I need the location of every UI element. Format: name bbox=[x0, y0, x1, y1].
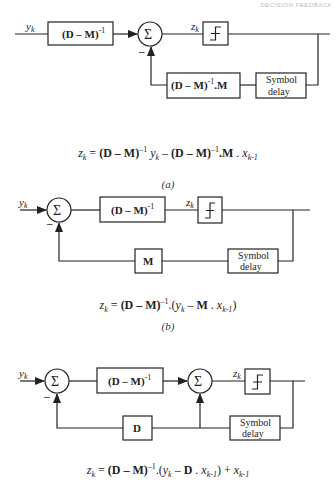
forward-block-label: (D – M)-1 bbox=[108, 373, 151, 388]
input-label-yk: yk bbox=[18, 367, 28, 381]
forward-block-label: (D – M)-1 bbox=[62, 26, 105, 41]
diagram-b bbox=[20, 197, 310, 273]
caption-b: (b) bbox=[0, 320, 336, 332]
forward-block-label: (D – M)-1 bbox=[111, 202, 154, 217]
block-diagrams: yk (D – M)-1 Σ – zk (D – M)-1.M Symbol d… bbox=[0, 0, 336, 485]
input-label-yk: yk bbox=[25, 20, 35, 34]
feedback-line bbox=[59, 225, 135, 261]
caption-a: (a) bbox=[0, 178, 336, 190]
delay-label-line2: delay bbox=[240, 261, 262, 272]
sigma-symbol-1: Σ bbox=[51, 374, 59, 389]
sigma-symbol-2: Σ bbox=[194, 374, 202, 389]
input-label-yk: yk bbox=[18, 196, 28, 210]
slicer-input-label-zk: zk bbox=[232, 367, 241, 381]
minus-sign: – bbox=[43, 390, 50, 402]
slicer-icon bbox=[205, 203, 215, 218]
feedback-branch bbox=[280, 381, 293, 428]
delay-label-line2: delay bbox=[268, 86, 290, 97]
delay-label-line1: Symbol bbox=[238, 250, 269, 261]
sigma-symbol: Σ bbox=[144, 27, 152, 42]
slicer-icon bbox=[252, 375, 263, 389]
feedback-block-label: M bbox=[143, 255, 154, 267]
delay-label-line2: delay bbox=[242, 428, 264, 439]
diagram-b-labels: yk Σ – (D – M)-1 zk M Symbol delay bbox=[18, 196, 269, 272]
feedback-branch bbox=[278, 210, 293, 261]
sigma-symbol: Σ bbox=[53, 203, 61, 218]
feedback-block-label: D bbox=[133, 422, 141, 434]
minus-sign: – bbox=[46, 217, 53, 229]
feedback-line bbox=[57, 396, 123, 428]
diagram-c-labels: yk Σ – (D – M)-1 Σ zk D Symbol delay bbox=[18, 367, 271, 439]
equation-c: zk = (D – M)–1.(yk – D . xk-1) + xk-1 bbox=[0, 462, 336, 479]
slicer-icon bbox=[210, 27, 221, 40]
slicer-input-label-zk: zk bbox=[185, 196, 194, 210]
minus-sign: – bbox=[138, 45, 145, 57]
feedback-block-label: (D – M)-1.M bbox=[171, 77, 228, 92]
equation-b: zk = (D – M)–1.(yk – M . xk-1) bbox=[0, 297, 336, 314]
feedback-branch bbox=[306, 34, 318, 85]
equation-a: zk = (D – M)–1 yk – (D – M)–1.M . xk-1 bbox=[0, 145, 336, 162]
feedback-line bbox=[151, 48, 167, 85]
slicer-input-label-zk: zk bbox=[190, 20, 199, 34]
delay-label-line1: Symbol bbox=[266, 74, 297, 85]
delay-label-line1: Symbol bbox=[240, 417, 271, 428]
